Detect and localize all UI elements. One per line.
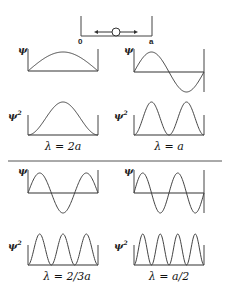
psi-curve <box>28 52 98 71</box>
panel-n1: ψψ2λ = 2a <box>8 44 98 153</box>
particle-icon <box>112 28 120 36</box>
psi2-curve <box>28 102 98 135</box>
wavelength-label: λ = 2a <box>44 140 82 153</box>
left-arrowhead-icon <box>94 30 98 34</box>
psi-label: ψ <box>18 44 28 55</box>
psi-squared-label: ψ2 <box>8 239 22 251</box>
panel-n3: ψψ2λ = 2/3a <box>8 165 98 283</box>
box-schematic: 0 a <box>78 16 154 46</box>
particle-in-box-diagram: 0 a ψψ2λ = 2aψψ2λ = aψψ2λ = 2/3aψψ2λ = a… <box>0 0 228 291</box>
box-left-label: 0 <box>78 37 83 46</box>
panel-n4: ψψ2λ = a/2 <box>114 165 204 283</box>
psi2-curve <box>28 234 98 265</box>
psi-squared-label: ψ2 <box>8 109 22 121</box>
box-right-label: a <box>149 37 154 46</box>
psi-label: ψ <box>18 165 28 176</box>
psi-squared-label: ψ2 <box>114 239 128 251</box>
wavelength-label: λ = 2/3a <box>42 270 90 283</box>
wavelength-label: λ = a <box>153 140 184 153</box>
panel-n2: ψψ2λ = a <box>114 44 204 153</box>
right-arrowhead-icon <box>134 30 138 34</box>
psi-squared-label: ψ2 <box>114 109 128 121</box>
psi-label: ψ <box>124 165 134 176</box>
psi2-curve <box>134 234 204 265</box>
psi2-curve <box>134 102 204 135</box>
psi-label: ψ <box>124 44 134 55</box>
wavelength-label: λ = a/2 <box>148 270 189 283</box>
